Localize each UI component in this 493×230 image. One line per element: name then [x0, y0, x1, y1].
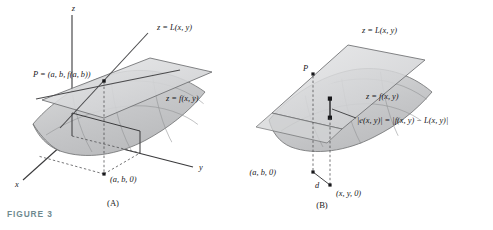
- point-p-label-a: P = (a, b, f(a, b)): [32, 70, 91, 79]
- base-point-marker-a: [102, 172, 105, 175]
- query-point-marker-b: [328, 183, 331, 186]
- tangent-plane-label-a: z = L(x, y): [156, 23, 192, 32]
- error-label-b: |e(x, y)| = |f(x, y) − L(x, y)|: [357, 116, 448, 125]
- surface-label-a: z = f(x, y): [165, 94, 199, 103]
- x-axis-label: x: [14, 180, 19, 189]
- panel-a-label: (A): [107, 198, 119, 208]
- figure-3-container: z y x z = L(x, y) z = f(x, y) P = (a, b,…: [0, 0, 493, 230]
- base-point-marker-b: [311, 170, 314, 173]
- panel-b-label: (B): [316, 200, 328, 210]
- distance-label-b: d: [315, 181, 320, 190]
- figure-3-illustration: z y x z = L(x, y) z = f(x, y) P = (a, b,…: [0, 0, 493, 230]
- z-axis-label: z: [71, 4, 76, 13]
- y-axis-label: y: [198, 163, 203, 172]
- error-segment-top-marker: [328, 97, 332, 101]
- tangent-plane-label-b: z = L(x, y): [361, 26, 397, 35]
- base-point-label-a: (a, b, 0): [110, 175, 137, 184]
- panel-b: z = L(x, y) z = f(x, y) P |e(x, y)| = |f…: [249, 26, 448, 210]
- point-p-marker-b: [311, 72, 314, 75]
- base-point-label-b: (a, b, 0): [249, 168, 276, 177]
- point-p-label-b: P: [302, 64, 308, 73]
- panel-a: z y x z = L(x, y) z = f(x, y) P = (a, b,…: [14, 4, 212, 208]
- query-point-label-b: (x, y, 0): [336, 189, 361, 198]
- surface-label-b: z = f(x, y): [365, 92, 399, 101]
- figure-caption: FIGURE 3: [7, 209, 53, 219]
